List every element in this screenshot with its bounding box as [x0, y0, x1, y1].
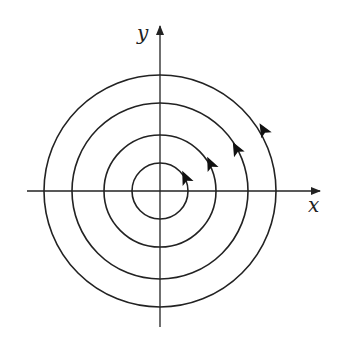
arrow-icon: [254, 120, 271, 138]
phase-portrait-diagram: y x: [0, 0, 342, 344]
y-axis-label: y: [136, 21, 149, 45]
arrow-icon: [227, 139, 244, 157]
x-axis-label: x: [308, 193, 319, 217]
